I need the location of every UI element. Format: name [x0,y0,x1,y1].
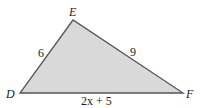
triangle-def [20,20,183,93]
vertex-label-f: F [185,87,194,101]
triangle-diagram: E D F 6 9 2x + 5 [0,0,207,108]
side-label-de: 6 [38,46,44,60]
side-label-ef: 9 [130,45,136,59]
vertex-label-d: D [5,87,15,101]
vertex-label-e: E [68,5,77,19]
side-label-df: 2x + 5 [81,94,112,108]
